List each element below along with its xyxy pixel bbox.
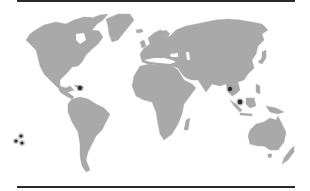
borneo: [246, 98, 256, 108]
greenland: [106, 14, 134, 42]
marker-dot-icon: [78, 86, 82, 90]
australia: [248, 116, 286, 150]
map-marker-caribbean[interactable]: [76, 84, 83, 91]
tasmania: [268, 154, 272, 158]
map-marker-pacific-3[interactable]: [19, 140, 25, 146]
marker-dot-icon: [20, 141, 23, 144]
philippines: [256, 84, 260, 94]
new-zealand: [282, 146, 294, 164]
map-marker-malaysia[interactable]: [236, 98, 244, 106]
map-marker-pacific-1[interactable]: [18, 133, 24, 139]
marker-dot-icon: [14, 139, 17, 142]
japan: [258, 50, 266, 64]
marker-dot-icon: [19, 134, 22, 137]
markers: [13, 84, 244, 146]
map-marker-pacific-2[interactable]: [13, 138, 19, 144]
madagascar: [184, 118, 190, 130]
marker-dot-icon: [238, 100, 243, 105]
land-masses: [26, 14, 294, 172]
map-marker-indochina[interactable]: [226, 85, 233, 92]
british-isles: [140, 40, 146, 48]
new-guinea: [266, 106, 284, 114]
north-america: [26, 14, 108, 92]
south-america: [68, 97, 110, 172]
iceland: [136, 29, 143, 33]
marker-dot-icon: [228, 87, 232, 91]
bottom-rule: [17, 186, 295, 188]
world-map: [0, 0, 310, 191]
java: [240, 113, 252, 116]
